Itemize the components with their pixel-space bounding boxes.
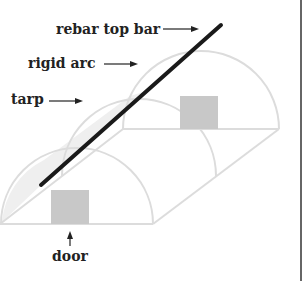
- door-arrowhead-icon: [67, 231, 73, 239]
- tarp-arrowhead-icon: [75, 98, 83, 104]
- front-door: [51, 190, 89, 224]
- hoop-house-diagram: rebar top bar rigid arc tarp door: [0, 0, 305, 281]
- tarp-label: tarp: [11, 91, 44, 107]
- rebar-label: rebar top bar: [56, 21, 161, 37]
- right-side-line: [153, 129, 279, 224]
- rebar-arrowhead-icon: [191, 26, 199, 32]
- door-label: door: [52, 248, 88, 264]
- back-door: [180, 96, 218, 129]
- arc-arrowhead-icon: [130, 61, 138, 67]
- arc-label: rigid arc: [28, 55, 95, 71]
